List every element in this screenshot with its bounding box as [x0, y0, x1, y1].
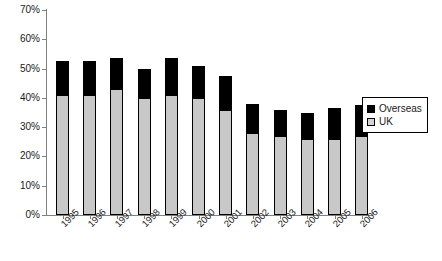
chart-legend: Overseas UK: [362, 97, 428, 133]
legend-swatch-overseas-icon: [367, 105, 375, 113]
legend-item-overseas: Overseas: [367, 102, 422, 115]
bar-segment-uk: [56, 95, 69, 215]
bar-group: [328, 10, 341, 215]
bar-group: [301, 10, 314, 215]
y-axis-label: 50%: [0, 64, 40, 74]
bar-group: [219, 10, 232, 215]
legend-swatch-uk-icon: [367, 118, 375, 126]
y-axis-label: 40%: [0, 93, 40, 103]
bar-segment-overseas: [274, 110, 287, 136]
y-axis-label: 10%: [0, 181, 40, 191]
bar-segment-uk: [192, 98, 205, 215]
y-axis-label: 70%: [0, 5, 40, 15]
legend-item-uk: UK: [367, 115, 422, 128]
bar-segment-uk: [328, 139, 341, 215]
y-axis-label: 60%: [0, 34, 40, 44]
bar-group: [56, 10, 69, 215]
bar-group: [83, 10, 96, 215]
bar-segment-overseas: [165, 58, 178, 95]
bar-segment-overseas: [219, 76, 232, 110]
bar-segment-overseas: [83, 61, 96, 95]
bar-group: [165, 10, 178, 215]
bar-segment-overseas: [246, 104, 259, 133]
bar-group: [192, 10, 205, 215]
bar-segment-uk: [355, 136, 368, 215]
bar-group: [110, 10, 123, 215]
bar-segment-overseas: [328, 108, 341, 139]
bar-segment-uk: [138, 98, 151, 215]
legend-label-uk: UK: [379, 116, 393, 127]
bar-segment-overseas: [301, 113, 314, 139]
bar-segment-uk: [274, 136, 287, 215]
bar-segment-uk: [301, 139, 314, 215]
bar-group: [246, 10, 259, 215]
stacked-bar-chart: 0%10%20%30%40%50%60%70% 1995199619971998…: [0, 0, 442, 261]
bar-group: [274, 10, 287, 215]
bar-segment-overseas: [192, 66, 205, 98]
bar-segment-overseas: [138, 69, 151, 98]
bar-segment-uk: [110, 89, 123, 215]
y-axis-label: 30%: [0, 122, 40, 132]
bar-group: [138, 10, 151, 215]
bar-segment-uk: [165, 95, 178, 215]
bar-segment-overseas: [110, 58, 123, 89]
y-axis-label: 0%: [0, 210, 40, 220]
bar-segment-uk: [246, 133, 259, 215]
legend-label-overseas: Overseas: [379, 103, 422, 114]
bar-segment-uk: [219, 110, 232, 215]
y-axis-label: 20%: [0, 151, 40, 161]
bar-segment-overseas: [56, 61, 69, 95]
plot-area: [47, 10, 372, 215]
bar-segment-uk: [83, 95, 96, 215]
